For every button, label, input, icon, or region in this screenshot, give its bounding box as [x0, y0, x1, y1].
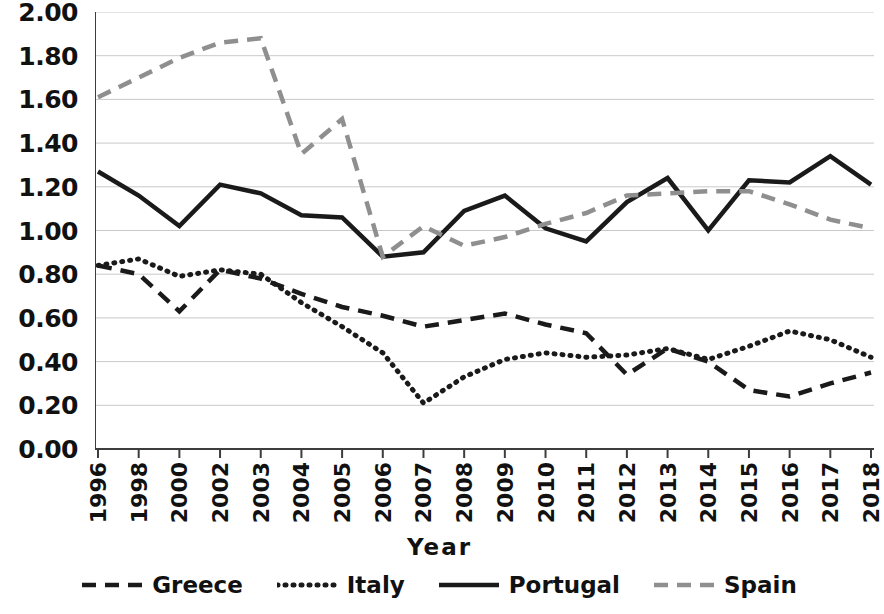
legend-label: Greece — [152, 572, 243, 598]
x-axis-tick-label: 2014 — [696, 462, 721, 523]
x-axis-tick-label: 2005 — [330, 462, 355, 523]
legend-item-italy[interactable]: Italy — [277, 572, 405, 598]
x-axis-tick-label: 2002 — [208, 462, 233, 523]
x-axis-title: Year — [0, 534, 879, 560]
y-axis-labels: 0.000.200.400.600.801.001.201.401.601.80… — [0, 0, 86, 460]
gridlines — [95, 12, 874, 405]
legend-item-greece[interactable]: Greece — [82, 572, 243, 598]
x-axis-tick-label: 2006 — [370, 462, 395, 523]
legend-swatch-greece-icon — [82, 578, 142, 592]
y-axis-tick-label: 0.60 — [18, 303, 78, 332]
plot-area — [95, 12, 874, 449]
x-axis-tick-label: 2007 — [411, 462, 436, 523]
legend-swatch-spain-icon — [654, 578, 714, 592]
x-axis-tick-label: 2012 — [614, 462, 639, 523]
y-axis-tick-label: 2.00 — [18, 0, 78, 27]
x-axis-tick-label: 2010 — [533, 462, 558, 523]
y-axis-tick-label: 1.00 — [18, 216, 78, 245]
legend-swatch-italy-icon — [277, 578, 337, 592]
y-axis-tick-label: 1.80 — [18, 41, 78, 70]
x-axis-tick-label: 2017 — [818, 462, 843, 523]
y-axis-tick-label: 0.00 — [18, 435, 78, 464]
y-axis-tick-label: 0.40 — [18, 347, 78, 376]
x-axis-tick-label: 1996 — [86, 462, 111, 523]
series-line-spain — [98, 38, 871, 257]
x-axis-tick-label: 2015 — [736, 462, 761, 523]
y-axis-tick-label: 0.20 — [18, 391, 78, 420]
y-axis-tick-label: 1.20 — [18, 172, 78, 201]
x-axis-tick-label: 2018 — [859, 462, 884, 523]
legend-swatch-portugal-icon — [439, 578, 499, 592]
x-axis-tick-label: 2008 — [452, 462, 477, 523]
x-axis-tick-label: 2013 — [655, 462, 680, 523]
series-line-italy — [98, 259, 871, 403]
legend-label: Portugal — [509, 572, 620, 598]
y-axis-tick-label: 0.80 — [18, 260, 78, 289]
chart-legend: GreeceItalyPortugalSpain — [0, 572, 879, 598]
y-axis-tick-label: 1.60 — [18, 85, 78, 114]
x-axis-tick-label: 2000 — [167, 462, 192, 523]
x-axis-tick-label: 2004 — [289, 462, 314, 523]
plot-svg — [95, 12, 874, 461]
legend-label: Italy — [347, 572, 405, 598]
legend-item-portugal[interactable]: Portugal — [439, 572, 620, 598]
x-axis-tick-label: 1998 — [126, 462, 151, 523]
series-line-greece — [98, 265, 871, 396]
y-axis-tick-label: 1.40 — [18, 129, 78, 158]
legend-item-spain[interactable]: Spain — [654, 572, 797, 598]
x-axis-tick-label: 2003 — [248, 462, 273, 523]
x-axis-tick-label: 2011 — [574, 462, 599, 523]
x-axis-tick-label: 2009 — [492, 462, 517, 523]
legend-label: Spain — [724, 572, 797, 598]
x-axis-tick-label: 2016 — [777, 462, 802, 523]
